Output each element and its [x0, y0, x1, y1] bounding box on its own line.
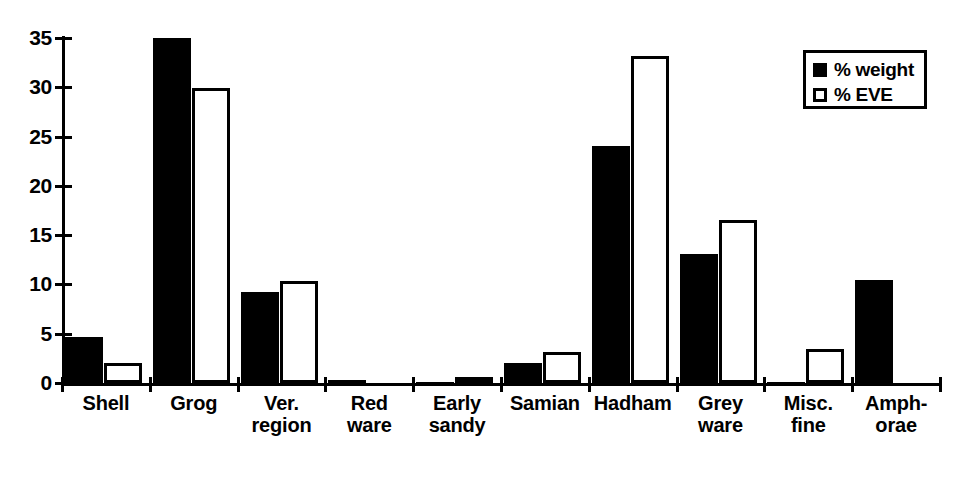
x-axis-category-label: Earlysandy	[413, 392, 501, 437]
x-axis-category-label: Shell	[62, 392, 150, 414]
x-axis-category-label-line2: region	[238, 414, 326, 436]
x-axis-category-label-line1: Red	[351, 392, 388, 414]
bar-eve	[719, 220, 757, 383]
legend-item-label: % weight	[834, 60, 914, 79]
bar-group	[589, 36, 677, 383]
y-axis-tick-label: 25	[0, 126, 52, 148]
bar-group	[238, 36, 326, 383]
y-axis-tick-label-text: 15	[6, 224, 52, 245]
bar-weight	[65, 337, 103, 383]
x-axis-category-label: Misc.fine	[764, 392, 852, 437]
bar-weight	[153, 38, 191, 383]
x-axis-category-label-line2: sandy	[413, 414, 501, 436]
x-axis-category-label-line1: Grey	[698, 392, 743, 414]
bar-group	[501, 36, 589, 383]
bar-weight	[241, 292, 279, 383]
bar-eve	[631, 56, 669, 383]
y-axis-tick-label-text: 20	[6, 175, 52, 196]
x-axis-category-label: Amph-orae	[852, 392, 940, 437]
bar-chart: 05101520253035 ShellGrogVer.regionRedwar…	[0, 0, 970, 478]
legend-item: % weight	[813, 57, 924, 82]
y-axis-tick-label: 20	[0, 175, 52, 197]
x-axis-category-label-line1: Misc.	[784, 392, 833, 414]
y-axis-tick-label-text: 25	[6, 126, 52, 147]
bar-weight	[767, 382, 805, 383]
y-axis-tick-label: 0	[0, 372, 52, 394]
x-axis-category-label-line2: ware	[325, 414, 413, 436]
bar-group	[325, 36, 413, 383]
bar-group	[413, 36, 501, 383]
bar-eve	[104, 363, 142, 383]
legend-item: % EVE	[813, 82, 924, 107]
bar-weight	[855, 280, 893, 384]
bar-eve	[280, 281, 318, 384]
bar-eve	[806, 349, 844, 384]
x-axis-category-label-line2: orae	[852, 414, 940, 436]
bar-weight	[328, 380, 366, 383]
y-axis-tick-label-text: 30	[6, 76, 52, 97]
x-axis-category-label: Grog	[150, 392, 238, 414]
x-axis-category-label-line1: Shell	[83, 392, 130, 414]
bar-weight	[592, 146, 630, 383]
hollow-square-icon	[813, 88, 827, 102]
legend-item-label: % EVE	[834, 85, 893, 104]
y-axis-tick-label: 15	[0, 224, 52, 246]
x-axis-category-label-line1: Samian	[510, 392, 580, 414]
x-axis-category-label: Ver.region	[238, 392, 326, 437]
filled-square-icon	[813, 63, 827, 77]
y-axis-tick-label-text: 10	[6, 273, 52, 294]
y-axis-tick-label: 35	[0, 27, 52, 49]
x-axis-category-label-line1: Ver.	[264, 392, 299, 414]
bar-weight	[504, 363, 542, 383]
chart-legend: % weight% EVE	[803, 50, 927, 109]
x-axis-category-label: Samian	[501, 392, 589, 414]
x-axis-category-label-line1: Amph-	[865, 392, 927, 414]
x-axis-category-label-line2: ware	[677, 414, 765, 436]
bar-weight	[680, 254, 718, 383]
x-axis-category-label: Hadham	[589, 392, 677, 414]
bar-group	[677, 36, 765, 383]
x-axis-category-label: Greyware	[677, 392, 765, 437]
y-axis-tick-label-text: 35	[6, 27, 52, 48]
bar-weight	[416, 382, 454, 383]
y-axis-tick-label: 30	[0, 76, 52, 98]
y-axis-tick-label-text: 5	[6, 323, 52, 344]
y-axis-tick-label: 5	[0, 323, 52, 345]
bar-eve	[455, 377, 493, 383]
x-axis-category-label-line2: fine	[764, 414, 852, 436]
bar-group	[150, 36, 238, 383]
x-axis-category-label-line1: Hadham	[594, 392, 672, 414]
y-axis-tick-label-text: 0	[6, 372, 52, 393]
x-axis-category-label: Redware	[325, 392, 413, 437]
bar-group	[62, 36, 150, 383]
x-axis-category-label-line1: Early	[433, 392, 481, 414]
y-axis-tick-label: 10	[0, 273, 52, 295]
bar-eve	[192, 88, 230, 383]
x-axis-category-label-line1: Grog	[170, 392, 217, 414]
bar-eve	[543, 352, 581, 383]
